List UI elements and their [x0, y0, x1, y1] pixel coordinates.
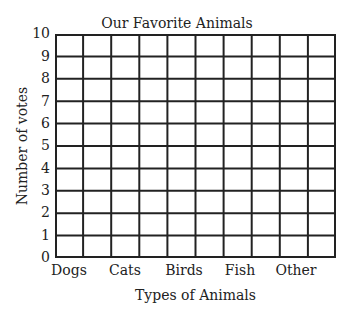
y-tick-3: 3 [30, 183, 50, 197]
y-tick-8: 8 [30, 71, 50, 85]
x-tick-fish: Fish [210, 262, 270, 278]
x-tick-dogs: Dogs [39, 262, 99, 278]
y-tick-10: 10 [30, 26, 50, 40]
chart-title: Our Favorite Animals [0, 15, 354, 31]
y-tick-2: 2 [30, 205, 50, 219]
x-axis-label: Types of Animals [55, 287, 336, 303]
y-tick-4: 4 [30, 161, 50, 175]
y-tick-9: 9 [30, 49, 50, 63]
y-tick-7: 7 [30, 94, 50, 108]
chart-grid [55, 34, 336, 258]
y-tick-1: 1 [30, 228, 50, 242]
x-tick-cats: Cats [95, 262, 155, 278]
x-tick-birds: Birds [154, 262, 214, 278]
y-tick-6: 6 [30, 116, 50, 130]
x-tick-other: Other [266, 262, 326, 278]
y-tick-5: 5 [30, 138, 50, 152]
y-axis-label: Number of votes [14, 87, 30, 205]
